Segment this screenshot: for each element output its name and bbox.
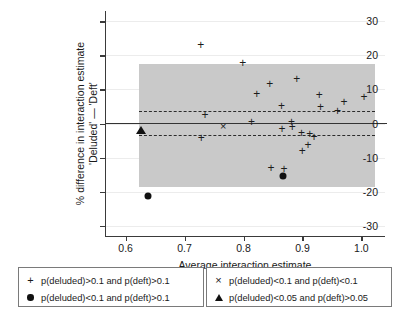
data-point-plus: + [289, 121, 296, 133]
x-tick [126, 236, 127, 241]
y-tick-label: 10 [366, 84, 378, 95]
x-tick [361, 236, 362, 241]
data-point-plus: + [317, 101, 324, 113]
y-tick [100, 226, 105, 227]
data-point-dot [145, 193, 152, 200]
legend-dot-icon-wrap [23, 294, 38, 301]
y-axis-title-line1: % difference in interaction estimate [74, 11, 87, 236]
data-point-plus: + [341, 96, 348, 108]
data-point-plus: + [334, 105, 341, 117]
x-tick-label: 0.8 [236, 243, 251, 254]
x-tick-label: 0.7 [177, 243, 192, 254]
y-tick-label: -10 [363, 152, 378, 163]
y-tick-label: -30 [363, 221, 378, 232]
data-point-plus: + [299, 145, 306, 157]
lower-limit-of-agreement-line [139, 135, 375, 136]
legend-row: ×p(deluded)<0.1 and p(deft)<0.1 [211, 272, 385, 289]
legend-row: p(deluded)<0.05 and p(deft)>0.05 [211, 289, 385, 306]
y-tick-label: 0 [372, 118, 378, 129]
x-axis [105, 236, 385, 237]
data-point-plus: + [198, 132, 205, 144]
y-tick [100, 89, 105, 90]
x-tick-label: 1.0 [354, 243, 369, 254]
legend-row: p(deluded)<0.1 and p(deft)>0.1 [23, 289, 197, 306]
data-point-dot [279, 173, 286, 180]
x-tick-label: 0.6 [118, 243, 133, 254]
x-tick [302, 236, 303, 241]
legend-row: +p(deluded)>0.1 and p(deft)>0.1 [23, 272, 197, 289]
gridline [105, 226, 385, 227]
zero-reference-line [105, 123, 387, 125]
data-point-plus: + [201, 109, 208, 121]
y-tick [100, 124, 105, 125]
data-point-plus: + [266, 78, 273, 90]
data-point-cross: × [220, 120, 226, 131]
x-tick [244, 236, 245, 241]
legend-label: p(deluded)<0.05 and p(deft)>0.05 [226, 293, 368, 303]
legend-cross-icon: × [211, 275, 226, 286]
y-axis [105, 11, 106, 236]
legend-label: p(deluded)<0.1 and p(deft)<0.1 [226, 276, 358, 286]
data-point-plus: + [293, 73, 300, 85]
legend-plus-icon: + [23, 275, 38, 286]
legend-dot-icon [27, 294, 34, 301]
legend-label: p(deluded)>0.1 and p(deft)>0.1 [38, 276, 170, 286]
y-tick-label: -20 [363, 186, 378, 197]
data-point-plus: + [239, 57, 246, 69]
x-tick [185, 236, 186, 241]
y-tick [100, 21, 105, 22]
legend-label: p(deluded)<0.1 and p(deft)>0.1 [38, 293, 170, 303]
y-tick-label: 20 [366, 50, 378, 61]
gridline [105, 21, 385, 22]
legend-triangle-icon [215, 294, 223, 301]
legend-right: ×p(deluded)<0.1 and p(deft)<0.1p(deluded… [206, 267, 392, 307]
data-point-plus: + [267, 162, 274, 174]
data-point-plus: + [253, 88, 260, 100]
y-tick-label: 30 [366, 16, 378, 27]
data-point-plus: + [279, 123, 286, 135]
data-point-plus: + [248, 116, 255, 128]
limits-of-agreement-band [139, 64, 375, 187]
y-tick [100, 158, 105, 159]
y-axis-title-line2: 'Deluded' — 'Deft' [87, 11, 100, 236]
y-axis-title: % difference in interaction estimate 'De… [74, 11, 99, 236]
y-tick [100, 55, 105, 56]
data-point-plus: + [197, 39, 204, 51]
scatter-plot-figure: ++++++++++++++++++++++++× 3020100-10-20-… [0, 0, 406, 315]
x-tick-label: 0.9 [295, 243, 310, 254]
legend-triangle-icon-wrap [211, 294, 226, 301]
legend-left: +p(deluded)>0.1 and p(deft)>0.1p(deluded… [18, 267, 204, 307]
data-point-triangle [136, 126, 146, 134]
data-point-plus: + [278, 100, 285, 112]
y-tick [100, 192, 105, 193]
plot-area: ++++++++++++++++++++++++× 3020100-10-20-… [105, 11, 385, 236]
